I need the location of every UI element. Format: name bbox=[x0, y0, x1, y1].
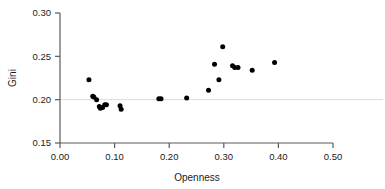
data-point bbox=[212, 62, 217, 67]
data-point bbox=[272, 60, 277, 65]
x-tick-label: 0.40 bbox=[269, 151, 288, 162]
data-point bbox=[236, 65, 241, 70]
x-tick-label: 0.20 bbox=[160, 151, 179, 162]
x-tick-label: 0.10 bbox=[105, 151, 124, 162]
y-tick-label: 0.25 bbox=[33, 51, 52, 62]
data-point bbox=[104, 102, 109, 107]
y-axis-title: Gini bbox=[7, 69, 18, 87]
x-axis-title: Openness bbox=[174, 172, 220, 183]
y-axis-ticks: 0.150.200.250.30 bbox=[33, 7, 61, 148]
y-tick-label: 0.20 bbox=[33, 94, 52, 105]
data-points bbox=[86, 44, 277, 111]
y-tick-label: 0.15 bbox=[33, 137, 52, 148]
x-tick-label: 0.50 bbox=[324, 151, 343, 162]
y-tick-label: 0.30 bbox=[33, 7, 52, 18]
data-point bbox=[86, 77, 91, 82]
scatter-chart-figure: 0.000.100.200.300.400.50 0.150.200.250.3… bbox=[0, 0, 385, 189]
x-tick-label: 0.30 bbox=[215, 151, 234, 162]
chart-svg: 0.000.100.200.300.400.50 0.150.200.250.3… bbox=[0, 0, 385, 189]
data-point bbox=[184, 95, 189, 100]
x-tick-label: 0.00 bbox=[51, 151, 70, 162]
data-point bbox=[159, 96, 164, 101]
axis-lines bbox=[60, 13, 333, 143]
data-point bbox=[94, 97, 99, 102]
data-point bbox=[216, 77, 221, 82]
data-point bbox=[220, 44, 225, 49]
data-point bbox=[206, 88, 211, 93]
data-point bbox=[250, 68, 255, 73]
x-axis-ticks: 0.000.100.200.300.400.50 bbox=[51, 143, 343, 162]
data-point bbox=[119, 107, 124, 112]
